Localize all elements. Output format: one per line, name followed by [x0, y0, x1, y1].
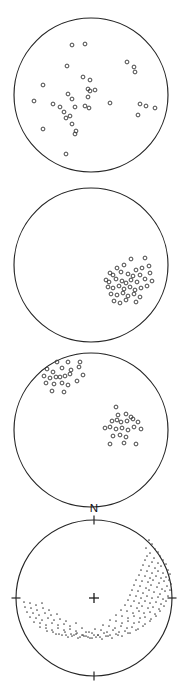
- data-point: [52, 631, 54, 633]
- data-point: [50, 614, 52, 616]
- data-point: [119, 420, 123, 424]
- data-point: [124, 412, 128, 416]
- data-point: [118, 631, 120, 633]
- data-point: [148, 539, 150, 541]
- data-point: [88, 631, 90, 633]
- data-point: [160, 577, 162, 579]
- data-point: [133, 288, 137, 292]
- data-point: [159, 593, 161, 595]
- data-point: [159, 555, 161, 557]
- data-point: [111, 637, 113, 639]
- data-point: [149, 611, 151, 613]
- data-point: [120, 426, 124, 430]
- data-point: [151, 572, 153, 574]
- data-point: [147, 607, 149, 609]
- data-point: [63, 629, 65, 631]
- data-point: [122, 263, 126, 267]
- data-point: [165, 600, 167, 602]
- data-point: [128, 285, 132, 289]
- data-point: [108, 442, 112, 446]
- data-point: [52, 382, 56, 386]
- data-point: [64, 116, 68, 120]
- data-point: [115, 633, 117, 635]
- data-point: [58, 105, 62, 109]
- data-point: [138, 610, 140, 612]
- data-point: [109, 292, 113, 296]
- data-point: [121, 635, 123, 637]
- data-point: [89, 637, 91, 639]
- data-point: [55, 633, 57, 635]
- data-point: [155, 575, 157, 577]
- data-point: [99, 636, 101, 638]
- data-point: [114, 627, 116, 629]
- data-point: [144, 559, 146, 561]
- data-point: [162, 572, 164, 574]
- data-point: [69, 628, 71, 630]
- data-point: [124, 604, 126, 606]
- data-point: [143, 256, 147, 260]
- data-point: [97, 634, 99, 636]
- data-point: [116, 413, 120, 417]
- data-point: [51, 370, 55, 374]
- data-point: [35, 617, 37, 619]
- data-point: [148, 565, 150, 567]
- data-point: [168, 579, 170, 581]
- data-point: [133, 600, 135, 602]
- stereonet-panel-3: [14, 353, 168, 507]
- data-point: [133, 615, 135, 617]
- data-point: [115, 293, 119, 297]
- data-point: [53, 619, 55, 621]
- data-point: [39, 622, 41, 624]
- data-point: [117, 284, 121, 288]
- data-point: [124, 298, 128, 302]
- data-point: [163, 605, 165, 607]
- data-point: [93, 634, 95, 636]
- data-point: [103, 632, 105, 634]
- data-point: [133, 622, 135, 624]
- data-point: [135, 629, 137, 631]
- data-point: [88, 78, 92, 82]
- data-point: [30, 607, 32, 609]
- stereonet-panel-4: N: [12, 502, 177, 680]
- data-point: [101, 638, 103, 640]
- data-point: [139, 617, 141, 619]
- data-point: [114, 277, 118, 281]
- data-point: [32, 99, 36, 103]
- data-point: [127, 617, 129, 619]
- data-point: [57, 624, 59, 626]
- data-point: [165, 563, 167, 565]
- data-point: [50, 389, 54, 393]
- data-point: [126, 428, 130, 432]
- data-point: [135, 579, 137, 581]
- data-point: [121, 615, 123, 617]
- data-point: [57, 627, 59, 629]
- data-point: [120, 625, 122, 627]
- data-point: [124, 281, 128, 285]
- data-point: [155, 601, 157, 603]
- data-point: [95, 636, 97, 638]
- data-point: [62, 110, 66, 114]
- data-point: [39, 626, 41, 628]
- data-point: [165, 576, 167, 578]
- data-point: [77, 637, 79, 639]
- data-point: [154, 613, 156, 615]
- data-point: [133, 584, 135, 586]
- data-point: [151, 543, 153, 545]
- data-point: [124, 435, 128, 439]
- data-point: [70, 633, 72, 635]
- center-cross-marker: [89, 593, 99, 603]
- data-point: [142, 592, 144, 594]
- data-point: [70, 122, 74, 126]
- data-point: [75, 630, 77, 632]
- net-outline-circle-1: [14, 18, 168, 172]
- data-point: [65, 634, 67, 636]
- data-point: [67, 636, 69, 638]
- data-point: [138, 574, 140, 576]
- data-point: [66, 360, 70, 364]
- data-point: [160, 565, 162, 567]
- data-point: [82, 634, 84, 636]
- data-point: [117, 634, 119, 636]
- data-point: [150, 618, 152, 620]
- data-point: [44, 612, 46, 614]
- data-point: [44, 381, 48, 385]
